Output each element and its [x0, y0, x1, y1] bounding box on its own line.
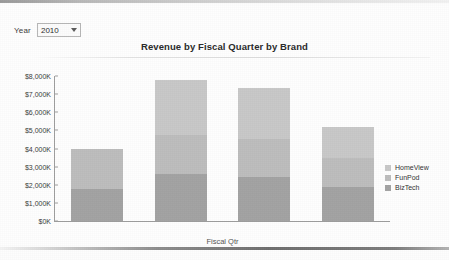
legend-item[interactable]: BizTech — [385, 183, 429, 192]
bar-group[interactable] — [71, 149, 123, 221]
bar-segment-funpod[interactable] — [322, 158, 374, 188]
revenue-chart: Revenue by Fiscal Quarter by Brand $0K$1… — [0, 35, 449, 245]
y-axis-tick-label: $3,000K — [25, 163, 55, 170]
bar-segment-funpod[interactable] — [238, 139, 290, 177]
chevron-down-icon — [71, 28, 77, 32]
bar-group[interactable] — [238, 88, 290, 221]
bar-segment-funpod[interactable] — [71, 149, 123, 189]
chart-legend: HomeViewFunPodBizTech — [385, 163, 429, 193]
y-axis-tick-label: $6,000K — [25, 109, 55, 116]
y-axis-tick-label: $8,000K — [25, 73, 55, 80]
legend-swatch-icon — [385, 185, 391, 191]
bar-segment-homeview[interactable] — [322, 127, 374, 158]
bar-series-group — [55, 76, 390, 221]
y-axis-tick-label: $2,000K — [25, 181, 55, 188]
legend-item[interactable]: FunPod — [385, 173, 429, 182]
plot-area: $0K$1,000K$2,000K$3,000K$4,000K$5,000K$6… — [55, 76, 390, 221]
x-axis-title: Fiscal Qtr — [55, 237, 390, 246]
y-axis-tick-label: $7,000K — [25, 91, 55, 98]
bar-segment-funpod[interactable] — [155, 135, 207, 174]
bar-segment-homeview[interactable] — [238, 88, 290, 139]
report-panel: Year 2010 Revenue by Fiscal Quarter by B… — [0, 5, 449, 245]
title-divider — [30, 57, 430, 58]
legend-item[interactable]: HomeView — [385, 163, 429, 172]
bar-segment-biztech[interactable] — [322, 187, 374, 221]
bar-group[interactable] — [322, 127, 374, 221]
chart-title: Revenue by Fiscal Quarter by Brand — [0, 41, 449, 52]
window-bottom-edge — [0, 247, 449, 250]
legend-swatch-icon — [385, 175, 391, 181]
year-select-value: 2010 — [41, 26, 59, 35]
year-filter-label: Year — [14, 26, 31, 35]
y-axis-tick-label: $0K — [39, 218, 55, 225]
window-top-edge — [0, 0, 449, 3]
y-axis-tick-label: $1,000K — [25, 199, 55, 206]
bar-group[interactable] — [155, 80, 207, 221]
legend-swatch-icon — [385, 165, 391, 171]
bar-segment-homeview[interactable] — [155, 80, 207, 135]
bar-segment-biztech[interactable] — [155, 174, 207, 221]
legend-label: FunPod — [395, 174, 420, 181]
bar-segment-biztech[interactable] — [71, 189, 123, 221]
y-axis-tick-label: $5,000K — [25, 127, 55, 134]
bar-segment-biztech[interactable] — [238, 177, 290, 221]
chart-panel: Year 2010 Revenue by Fiscal Quarter by B… — [0, 0, 449, 260]
legend-label: HomeView — [395, 164, 429, 171]
x-axis-line — [54, 221, 390, 222]
legend-label: BizTech — [395, 184, 420, 191]
y-axis-tick-label: $4,000K — [25, 145, 55, 152]
